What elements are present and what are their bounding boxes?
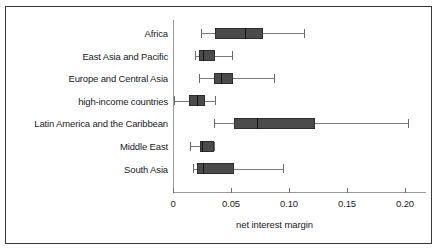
- median-line: [257, 118, 258, 129]
- median-line: [221, 73, 222, 84]
- category-label: South Asia: [124, 163, 168, 174]
- median-line: [245, 28, 246, 39]
- whisker-low-cap: [195, 51, 196, 60]
- whisker-high-cap: [408, 119, 409, 128]
- plot-area: AfricaEast Asia and PacificEurope and Ce…: [0, 0, 439, 251]
- x-axis-tick: [347, 188, 348, 193]
- whisker-low-cap: [214, 119, 215, 128]
- box-iqr: [214, 73, 234, 84]
- median-line: [197, 95, 198, 106]
- whisker-low-cap: [193, 164, 194, 173]
- whisker-high-line: [233, 78, 274, 79]
- x-axis-tick: [231, 188, 232, 193]
- median-line: [203, 163, 204, 174]
- whisker-low-line: [214, 123, 235, 124]
- whisker-high-line: [315, 123, 409, 124]
- x-axis-tick: [405, 188, 406, 193]
- box-iqr: [215, 28, 264, 39]
- whisker-high-line: [205, 101, 214, 102]
- box-iqr: [234, 118, 314, 129]
- x-axis-tick: [289, 188, 290, 193]
- median-line: [203, 50, 204, 61]
- whisker-low-cap: [201, 29, 202, 38]
- whisker-low-line: [190, 146, 199, 147]
- chart-figure: AfricaEast Asia and PacificEurope and Ce…: [0, 0, 439, 251]
- category-label: East Asia and Pacific: [82, 50, 168, 61]
- category-label: Latin America and the Caribbean: [34, 118, 168, 129]
- whisker-low-line: [174, 101, 189, 102]
- whisker-high-cap: [215, 96, 216, 105]
- whisker-low-cap: [199, 74, 200, 83]
- whisker-low-line: [199, 78, 214, 79]
- whisker-high-line: [215, 56, 232, 57]
- whisker-low-cap: [190, 142, 191, 151]
- whisker-low-line: [201, 33, 215, 34]
- whisker-high-cap: [274, 74, 275, 83]
- whisker-high-line: [234, 169, 283, 170]
- x-axis-tick-label: 0.15: [338, 198, 356, 209]
- category-label: Africa: [145, 28, 168, 39]
- category-label: high-income countries: [78, 95, 168, 106]
- whisker-low-cap: [174, 96, 175, 105]
- x-axis-tick: [173, 188, 174, 193]
- x-axis-tick-label: 0.05: [222, 198, 240, 209]
- y-axis-line: [173, 20, 174, 192]
- x-axis-title: net interest margin: [0, 219, 439, 230]
- x-axis-line: [173, 192, 426, 193]
- x-axis-title-text: net interest margin: [236, 219, 313, 230]
- x-axis-tick-label: 0.20: [396, 198, 414, 209]
- whisker-high-cap: [214, 142, 215, 151]
- category-label: Europe and Central Asia: [68, 73, 168, 84]
- whisker-high-cap: [304, 29, 305, 38]
- box-iqr: [199, 50, 215, 61]
- whisker-high-cap: [232, 51, 233, 60]
- whisker-high-cap: [283, 164, 284, 173]
- x-axis-tick-label: 0: [170, 198, 175, 209]
- category-label: Middle East: [120, 141, 168, 152]
- whisker-high-line: [263, 33, 304, 34]
- x-axis-tick-label: 0.10: [280, 198, 298, 209]
- median-line: [202, 141, 203, 152]
